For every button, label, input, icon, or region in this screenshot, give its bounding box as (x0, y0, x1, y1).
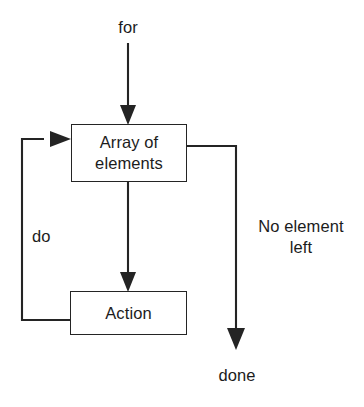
flowchart-diagram: Array of elements Action for do No eleme… (0, 0, 364, 407)
edge-label-for: for (98, 17, 158, 38)
edge-label-done: done (206, 365, 268, 386)
iterate-edge (120, 182, 136, 292)
loop-back-edge-arrowhead (50, 131, 71, 147)
entry-edge-arrowhead (120, 105, 136, 125)
edge-label-do: do (32, 226, 82, 247)
node-action-label: Action (105, 303, 151, 324)
entry-edge (120, 43, 136, 125)
node-array-of-elements-label: Array of elements (95, 132, 163, 174)
edge-label-no-element-left: No element left (241, 216, 361, 258)
exit-edge-line (187, 146, 236, 337)
iterate-edge-arrowhead (120, 272, 136, 292)
node-array-of-elements[interactable]: Array of elements (71, 124, 187, 182)
exit-edge-arrowhead (227, 328, 245, 350)
flowchart-edges-canvas (0, 0, 364, 407)
node-action[interactable]: Action (70, 291, 187, 335)
exit-edge (187, 146, 245, 350)
